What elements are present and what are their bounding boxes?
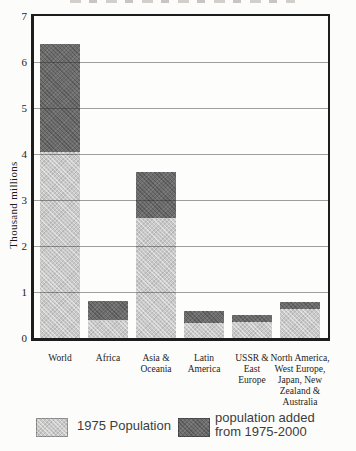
bar-segment-1975-population	[184, 323, 224, 338]
legend-swatch-population-added	[178, 418, 210, 437]
gridline	[34, 154, 328, 155]
y-tick-label: 6	[0, 56, 27, 68]
y-tick-label: 1	[0, 286, 27, 298]
y-tick-label: 7	[0, 10, 27, 22]
plot-area	[31, 14, 330, 341]
y-tick-label: 2	[0, 240, 27, 252]
bar-segment-1975-population	[280, 309, 320, 338]
x-category-label: North America, West Europe, Japan, New Z…	[266, 353, 334, 408]
gridline	[34, 292, 328, 293]
bar-africa	[88, 301, 128, 338]
gridline	[34, 62, 328, 63]
bar-segment-population-added	[232, 315, 272, 322]
bar-latin	[184, 311, 224, 338]
y-tick-label: 0	[0, 332, 27, 344]
bar-segment-population-added	[184, 311, 224, 323]
bar-segment-population-added	[136, 172, 176, 218]
bar-ussr	[232, 315, 272, 338]
bar-asia	[136, 172, 176, 338]
bar-segment-population-added	[280, 302, 320, 308]
bar-segment-1975-population	[136, 218, 176, 338]
gridline	[34, 108, 328, 109]
bar-world	[40, 44, 80, 338]
bar-segment-1975-population	[88, 320, 128, 338]
chart-figure: Thousand millions 01234567 WorldAfricaAs…	[0, 0, 356, 451]
x-axis-labels: WorldAfricaAsia & OceaniaLatin AmericaUS…	[0, 353, 356, 415]
y-tick-label: 4	[0, 148, 27, 160]
bar-segment-population-added	[40, 44, 80, 152]
bar-segment-population-added	[88, 301, 128, 319]
gridline	[34, 200, 328, 201]
gridline	[34, 246, 328, 247]
bar-north	[280, 302, 320, 338]
y-tick-label: 3	[0, 194, 27, 206]
legend-label-1975-population: 1975 Population	[77, 419, 171, 433]
legend-label-population-added: population added from 1975-2000	[215, 411, 315, 439]
cropped-title-fragment	[70, 0, 295, 3]
legend-swatch-1975-population	[36, 418, 68, 437]
bar-segment-1975-population	[232, 322, 272, 338]
y-tick-label: 5	[0, 102, 27, 114]
